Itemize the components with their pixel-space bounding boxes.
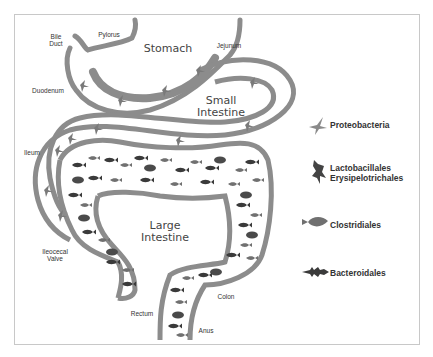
large-intestine-line2: Intestine	[135, 232, 195, 244]
bile-duct-line1: Bile	[46, 33, 66, 40]
bile-duct-label: Bile Duct	[46, 33, 66, 47]
legend-clostridiales: Clostridiales	[330, 220, 381, 230]
small-intestine-line2: Intestine	[196, 107, 246, 119]
ileocecal-line1: Ileocecal	[40, 248, 70, 255]
ileocecal-valve-label: Ileocecal Valve	[40, 248, 70, 262]
pylorus-label: Pylorus	[94, 31, 124, 38]
legend-lactobacillales-line1: Lactobacillales	[330, 163, 403, 173]
legend-proteobacteria: Proteobacteria	[330, 120, 390, 130]
legend-bacteroidales: Bacteroidales	[330, 268, 386, 278]
anus-label: Anus	[196, 327, 216, 334]
jejunum-label: Jejunum	[214, 42, 244, 49]
legend-lactobacillales: Lactobacillales Erysipelotrichales	[330, 163, 403, 183]
legend-lactobacillales-line2: Erysipelotrichales	[330, 173, 403, 183]
ileocecal-line2: Valve	[40, 255, 70, 262]
stomach-label: Stomach	[138, 43, 198, 55]
round-fish-icon	[302, 215, 330, 229]
bile-duct-line2: Duct	[46, 40, 66, 47]
hawk-icon	[310, 158, 328, 186]
ileum-label: Ileum	[22, 149, 42, 156]
small-intestine-label: Small Intestine	[196, 95, 246, 119]
duodenum-label: Duodenum	[30, 87, 66, 94]
bacteria-fill	[68, 156, 264, 338]
swallow-icon	[307, 115, 329, 137]
colon-label: Colon	[215, 293, 237, 300]
large-intestine-label: Large Intestine	[135, 220, 195, 244]
rectum-label: Rectum	[128, 310, 156, 317]
spiky-fish-icon	[302, 266, 330, 278]
